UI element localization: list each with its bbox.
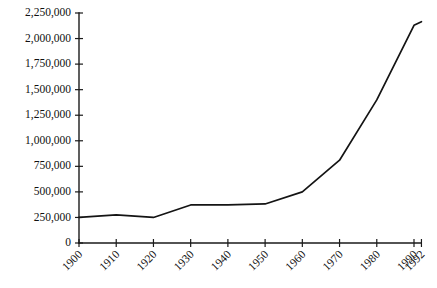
x-axis: 1900191019201930194019501960197019801990…	[60, 239, 427, 273]
y-axis-tick-labels: 0250,000500,000750,0001,000,0001,250,000…	[25, 6, 71, 248]
x-tick-label: 1992	[402, 248, 427, 273]
y-tick-label: 1,750,000	[25, 57, 71, 70]
y-tick-label: 2,000,000	[25, 32, 71, 45]
data-series-group	[79, 22, 421, 218]
data-line-population	[79, 22, 421, 218]
x-tick-label: 1930	[171, 248, 196, 273]
y-tick-label: 1,500,000	[25, 83, 71, 96]
y-tick-label: 2,250,000	[25, 6, 71, 19]
x-tick-label: 1900	[60, 248, 85, 273]
y-tick-label: 0	[65, 236, 71, 248]
x-tick-label: 1950	[246, 248, 271, 273]
x-tick-label: 1970	[320, 248, 345, 273]
y-tick-label: 250,000	[34, 211, 72, 224]
x-tick-label: 1960	[283, 248, 308, 273]
x-tick-label: 1910	[97, 248, 122, 273]
caption-remnant	[150, 275, 300, 285]
x-axis-tick-labels: 1900191019201930194019501960197019801990…	[60, 248, 427, 273]
line-chart-figure: 0250,000500,000750,0001,000,0001,250,000…	[0, 0, 437, 288]
y-tick-label: 500,000	[34, 185, 72, 198]
y-tick-label: 1,250,000	[25, 108, 71, 121]
x-tick-label: 1940	[209, 248, 234, 273]
y-tick-label: 750,000	[34, 159, 72, 172]
y-tick-label: 1,000,000	[25, 134, 71, 147]
x-tick-label: 1980	[357, 248, 382, 273]
y-axis: 0250,000500,000750,0001,000,0001,250,000…	[25, 6, 83, 248]
chart-canvas: 0250,000500,000750,0001,000,0001,250,000…	[0, 0, 437, 288]
x-tick-label: 1920	[134, 248, 159, 273]
